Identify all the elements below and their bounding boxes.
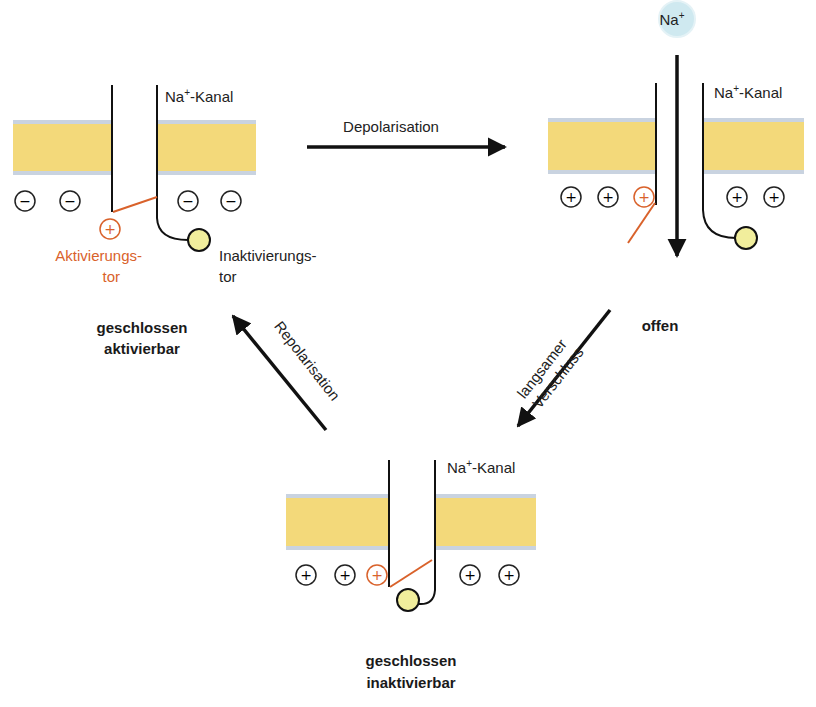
svg-text:+: + — [768, 189, 780, 205]
transition-depolarisation: Depolarisation — [307, 118, 505, 147]
state-label-line2: inaktivierbar — [366, 674, 455, 691]
svg-text:+: + — [339, 567, 351, 583]
membrane-left — [13, 120, 112, 175]
svg-text:−: − — [64, 193, 76, 209]
positive-charge: + — [499, 565, 519, 585]
svg-text:−: − — [182, 193, 194, 209]
inactivation-ball — [397, 589, 419, 611]
state-label: geschlossen — [366, 652, 457, 669]
state-label: offen — [642, 317, 679, 334]
activation-gate — [113, 197, 157, 212]
channel-label: Na+-Kanal — [714, 83, 782, 101]
gate-positive-charge: + — [100, 219, 120, 239]
transition-repolarisation: Repolarisation — [233, 316, 344, 430]
transition-label: Repolarisation — [271, 318, 343, 404]
negative-charge: − — [178, 191, 198, 211]
state-label: geschlossen — [97, 319, 188, 336]
channel-wall-right — [419, 460, 435, 604]
sodium-channel-diagram: − − − − + Na+-Kanal Aktivierungs- tor In… — [0, 0, 816, 707]
activation-gate — [390, 560, 432, 587]
sodium-ion: Na+ — [659, 1, 695, 37]
svg-text:+: + — [104, 221, 116, 237]
channel-label: Na+-Kanal — [165, 87, 233, 105]
transition-label: Depolarisation — [343, 118, 439, 135]
membrane-right — [435, 494, 536, 550]
activation-gate — [628, 203, 655, 243]
positive-charge: + — [764, 187, 784, 207]
activation-gate-label-line2: tor — [102, 268, 120, 285]
svg-text:+: + — [300, 567, 312, 583]
state-label-line2: aktivierbar — [104, 340, 180, 357]
channel-label: Na+-Kanal — [447, 458, 515, 476]
membrane-left — [286, 494, 389, 550]
positive-charge: + — [561, 187, 581, 207]
gate-positive-charge: + — [367, 565, 387, 585]
membrane-right — [157, 120, 256, 175]
svg-text:+: + — [464, 567, 476, 583]
positive-charge: + — [296, 565, 316, 585]
svg-text:+: + — [602, 189, 614, 205]
state-closed-inactivatable: + + + + + Na+-Kanal geschlossen inaktivi… — [286, 458, 536, 691]
positive-charge: + — [335, 565, 355, 585]
membrane-left — [548, 118, 656, 174]
inactivation-ball — [735, 227, 757, 249]
activation-gate-label: Aktivierungs- — [55, 247, 142, 264]
svg-text:+: + — [638, 189, 650, 205]
positive-charge: + — [598, 187, 618, 207]
inactivation-ball — [188, 229, 210, 251]
inactivation-gate-label-line2: tor — [219, 268, 237, 285]
negative-charge: − — [15, 191, 35, 211]
membrane-right — [703, 118, 804, 174]
state-closed-activatable: − − − − + Na+-Kanal Aktivierungs- tor In… — [13, 85, 317, 357]
svg-text:+: + — [371, 567, 383, 583]
svg-text:−: − — [225, 193, 237, 209]
positive-charge: + — [727, 187, 747, 207]
svg-text:+: + — [565, 189, 577, 205]
svg-text:+: + — [503, 567, 515, 583]
transition-slow-closure: langsamer Verschluss — [513, 310, 610, 426]
state-open: Na+ + + + + + Na+-Kanal offen — [548, 1, 804, 334]
svg-text:+: + — [731, 189, 743, 205]
gate-positive-charge: + — [634, 187, 654, 207]
inactivation-gate-label: Inaktivierungs- — [219, 247, 317, 264]
negative-charge: − — [221, 191, 241, 211]
negative-charge: − — [60, 191, 80, 211]
positive-charge: + — [460, 565, 480, 585]
svg-text:−: − — [19, 193, 31, 209]
